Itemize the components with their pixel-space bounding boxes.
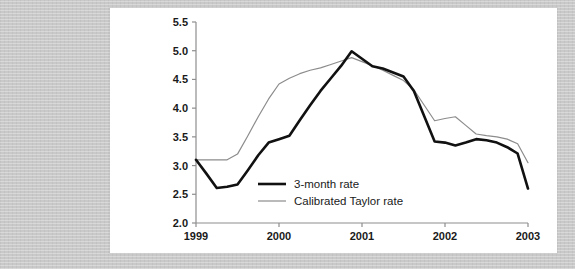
x-tick-label: 2001 bbox=[350, 230, 374, 242]
y-tick-label: 4.0 bbox=[173, 102, 188, 114]
page-background: 2.02.53.03.54.04.55.05.5 199920002001200… bbox=[0, 0, 575, 269]
y-tick-label: 2.5 bbox=[173, 188, 188, 200]
x-tick-label: 2002 bbox=[433, 230, 457, 242]
line-chart: 2.02.53.03.54.04.55.05.5 199920002001200… bbox=[110, 8, 557, 253]
x-tick-label: 1999 bbox=[184, 230, 208, 242]
y-tick-label: 4.5 bbox=[173, 73, 188, 85]
y-tick-label: 5.0 bbox=[173, 45, 188, 57]
y-tick-label: 3.5 bbox=[173, 131, 188, 143]
x-tick-label: 2000 bbox=[267, 230, 291, 242]
x-tick-label: 2003 bbox=[516, 230, 540, 242]
y-tick-label: 2.0 bbox=[173, 217, 188, 229]
figure-panel: 2.02.53.03.54.04.55.05.5 199920002001200… bbox=[110, 8, 557, 253]
y-tick-label: 5.5 bbox=[173, 16, 188, 28]
legend-label: 3-month rate bbox=[294, 178, 359, 190]
y-tick-label: 3.0 bbox=[173, 160, 188, 172]
legend-label: Calibrated Taylor rate bbox=[294, 195, 403, 207]
